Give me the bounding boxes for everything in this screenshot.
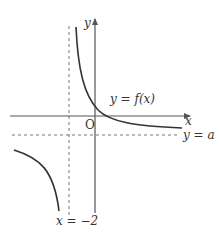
- function-graph: y x O y = f(x) y = a x = −2: [0, 0, 220, 235]
- vertical-asymptote-label: x = −2: [56, 214, 98, 228]
- curve-left-branch: [14, 150, 59, 211]
- horizontal-asymptote-label: y = a: [182, 128, 215, 142]
- curve-label: y = f(x): [109, 92, 155, 106]
- origin-label: O: [85, 118, 95, 132]
- curve-right-branch: [76, 27, 182, 128]
- x-axis-label: x: [185, 114, 192, 128]
- y-axis-label: y: [83, 16, 91, 30]
